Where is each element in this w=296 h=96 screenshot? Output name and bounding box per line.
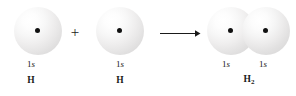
reaction-arrow xyxy=(159,26,203,39)
orbital-label-h2: 1s xyxy=(95,60,145,69)
orbital-overlap-figure: 1s H + 1s H 1s 1s H2 xyxy=(0,0,296,96)
nucleus-dot-h2 xyxy=(117,28,122,33)
orbital-label-h2mol-left: 1s xyxy=(206,60,246,69)
nucleus-dot-h1 xyxy=(35,28,40,33)
species-label-h2: H xyxy=(95,76,145,86)
nucleus-dot-h2mol-right xyxy=(263,28,268,33)
species-label-h1: H xyxy=(6,76,56,86)
orbital-label-h1: 1s xyxy=(6,60,56,69)
nucleus-dot-h2mol-left xyxy=(228,28,233,33)
orbital-label-h2mol-right: 1s xyxy=(243,60,283,69)
plus-operator: + xyxy=(69,25,81,40)
species-label-h2mol: H2 xyxy=(224,75,274,85)
